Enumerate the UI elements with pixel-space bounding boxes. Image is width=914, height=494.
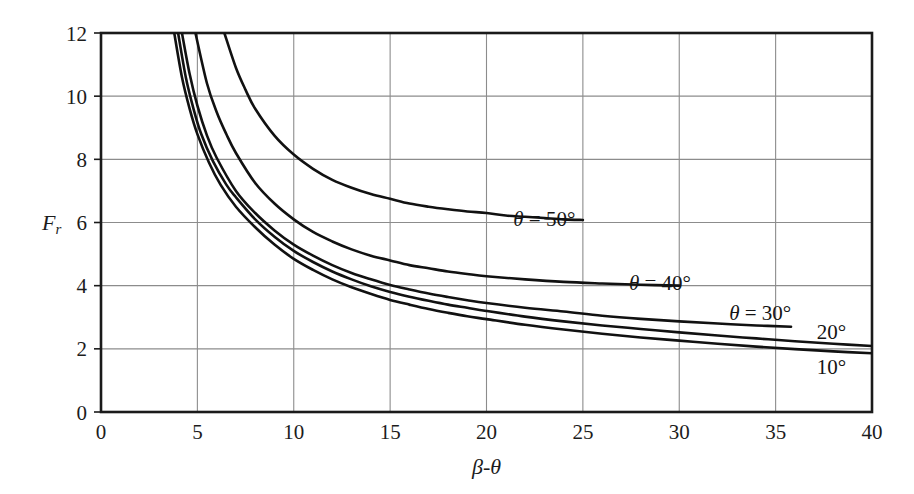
y-tick-label: 2 bbox=[77, 337, 88, 361]
y-tick-label: 6 bbox=[77, 211, 88, 235]
axis-titles: Frβ-θ bbox=[41, 210, 501, 479]
frouqe-number-chart: 0510152025303540 024681012 θ = 50°θ = 40… bbox=[0, 0, 914, 494]
series-label-40: θ = 40° bbox=[629, 271, 691, 295]
grid-lines bbox=[101, 33, 872, 412]
figure-canvas: 0510152025303540 024681012 θ = 50°θ = 40… bbox=[0, 0, 914, 494]
x-tick-label: 30 bbox=[669, 420, 690, 444]
x-tick-labels: 0510152025303540 bbox=[96, 420, 883, 444]
y-tick-labels: 024681012 bbox=[66, 22, 88, 425]
curve-theta-20 bbox=[178, 33, 872, 346]
y-tick-label: 4 bbox=[77, 274, 88, 298]
x-tick-label: 5 bbox=[192, 420, 203, 444]
series-label-20: 20° bbox=[817, 320, 846, 344]
x-axis-title: β-θ bbox=[471, 454, 501, 479]
x-tick-label: 25 bbox=[572, 420, 593, 444]
y-tick-label: 12 bbox=[66, 22, 87, 46]
series-label-30: θ = 30° bbox=[729, 301, 791, 325]
series-label-10: 10° bbox=[817, 355, 846, 379]
x-tick-label: 35 bbox=[765, 420, 786, 444]
series-label-50: θ = 50° bbox=[513, 207, 575, 231]
x-tick-label: 20 bbox=[476, 420, 497, 444]
x-tick-label: 0 bbox=[96, 420, 107, 444]
x-tick-label: 15 bbox=[380, 420, 401, 444]
curve-theta-50 bbox=[224, 33, 583, 220]
y-tick-label: 8 bbox=[77, 148, 88, 172]
x-tick-label: 10 bbox=[283, 420, 304, 444]
x-tick-label: 40 bbox=[862, 420, 883, 444]
y-axis-title: Fr bbox=[41, 210, 61, 237]
y-tick-label: 10 bbox=[66, 85, 87, 109]
y-tick-label: 0 bbox=[77, 401, 88, 425]
